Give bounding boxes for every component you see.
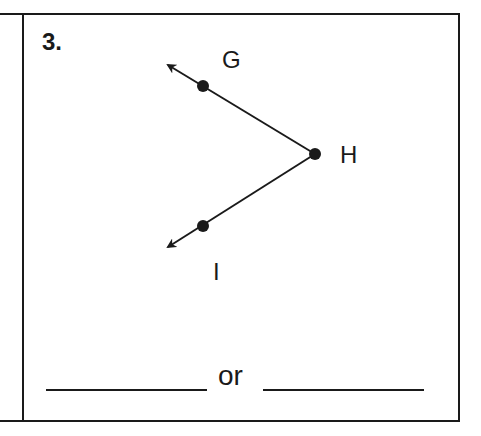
point-i	[197, 220, 209, 232]
label-h: H	[340, 141, 357, 169]
ray-hi	[168, 154, 315, 247]
or-text: or	[218, 360, 243, 392]
answer-blank-1[interactable]	[46, 389, 207, 391]
point-g	[197, 80, 209, 92]
label-g: G	[222, 46, 241, 74]
point-h	[309, 148, 321, 160]
ray-hg	[168, 65, 315, 154]
label-i: I	[213, 258, 220, 286]
answer-blank-2[interactable]	[263, 389, 424, 391]
